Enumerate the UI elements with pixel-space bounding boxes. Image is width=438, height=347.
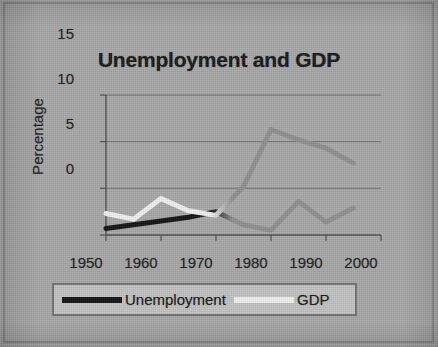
plot-svg: [86, 90, 386, 250]
legend-item-gdp: GDP: [234, 285, 330, 314]
chart-legend: Unemployment GDP: [52, 283, 357, 316]
x-tick-label-1960: 1960: [118, 254, 164, 271]
chart-title: Unemployment and GDP: [10, 48, 428, 72]
x-tick-label-1980: 1980: [228, 254, 274, 271]
y-axis-label: Percentage: [29, 77, 46, 197]
legend-label-unemployment: Unemployment: [125, 291, 226, 308]
gridlines: [106, 95, 381, 188]
x-tick-label-2000: 2000: [338, 254, 384, 271]
y-tick-label-0: 0: [44, 160, 74, 177]
legend-swatch-unemployment: [62, 297, 122, 303]
x-tick-label-1970: 1970: [173, 254, 219, 271]
series-lines: [106, 130, 354, 231]
x-tick-label-1990: 1990: [283, 254, 329, 271]
series-line-gdp: [106, 130, 354, 220]
series-line-unemployment: [106, 201, 354, 230]
legend-label-gdp: GDP: [297, 291, 330, 308]
y-tick-label-15: 15: [44, 25, 74, 42]
x-tick-marks: [100, 95, 381, 241]
chart-screenshot: Unemployment and GDP Percentage 0 5 10 1…: [0, 0, 438, 347]
x-tick-label-1950: 1950: [63, 254, 109, 271]
y-tick-label-5: 5: [44, 115, 74, 132]
legend-swatch-gdp: [234, 297, 294, 303]
plot-region: [86, 90, 386, 250]
legend-item-unemployment: Unemployment: [62, 285, 226, 314]
y-tick-label-10: 10: [44, 70, 74, 87]
